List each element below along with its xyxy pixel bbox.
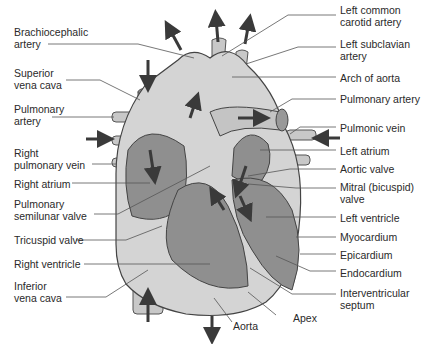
label-left-atrium: Left atrium <box>340 145 390 157</box>
label-pulmonary-artery-right: Pulmonary artery <box>340 93 420 105</box>
label-inferior-vena-cava: Inferior vena cava <box>14 280 62 304</box>
label-aorta: Aorta <box>233 320 258 332</box>
label-left-common-carotid-artery: Left common carotid artery <box>340 4 401 28</box>
label-epicardium: Epicardium <box>340 249 393 261</box>
label-pulmonic-vein: Pulmonic vein <box>340 122 405 134</box>
label-mitral-valve: Mitral (bicuspid) valve <box>340 181 414 205</box>
label-brachiocephalic-artery: Brachiocephalic artery <box>14 26 88 50</box>
label-endocardium: Endocardium <box>340 267 402 279</box>
label-tricuspid-valve: Tricuspid valve <box>14 234 84 246</box>
label-aortic-valve: Aortic valve <box>340 163 394 175</box>
label-myocardium: Myocardium <box>340 231 397 243</box>
label-superior-vena-cava: Superior vena cava <box>14 67 62 91</box>
label-interventricular-septum: Interventricular septum <box>340 287 409 311</box>
label-left-subclavian-artery: Left subclavian artery <box>340 38 410 62</box>
label-left-ventricle: Left ventricle <box>340 212 400 224</box>
label-apex: Apex <box>293 312 317 324</box>
label-right-pulmonary-vein: Right pulmonary vein <box>14 147 85 171</box>
label-right-atrium: Right atrium <box>14 178 71 190</box>
label-pulmonary-semilunar-valve: Pulmonary semilunar valve <box>14 198 87 222</box>
label-arch-of-aorta: Arch of aorta <box>340 72 400 84</box>
label-pulmonary-artery-left: Pulmonary artery <box>14 103 64 127</box>
label-right-ventricle: Right ventricle <box>14 258 81 270</box>
